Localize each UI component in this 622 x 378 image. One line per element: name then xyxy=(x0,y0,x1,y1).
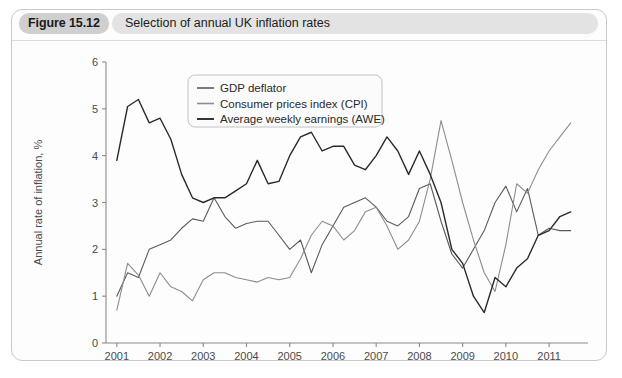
x-tick-label: 2009 xyxy=(450,350,474,361)
legend-label-awe: Average weekly earnings (AWE) xyxy=(220,113,385,125)
x-tick-label: 2008 xyxy=(407,350,431,361)
x-tick-label: 2005 xyxy=(277,350,301,361)
x-tick-label: 2011 xyxy=(537,350,561,361)
legend-label-cpi: Consumer prices index (CPI) xyxy=(220,98,368,110)
y-tick-label: 1 xyxy=(92,290,98,302)
x-tick-label: 2006 xyxy=(321,350,345,361)
x-tick-label: 2010 xyxy=(494,350,518,361)
y-tick-label: 6 xyxy=(92,56,98,68)
x-tick-label: 2001 xyxy=(105,350,129,361)
y-tick-label: 4 xyxy=(92,150,98,162)
y-axis-title: Annual rate of inflation, % xyxy=(32,140,44,266)
figure-number-tag: Figure 15.12 xyxy=(19,13,109,34)
figure-caption-text: Selection of annual UK inflation rates xyxy=(112,13,598,34)
figure-caption-bar: Figure 15.12 Selection of annual UK infl… xyxy=(12,10,606,40)
x-tick-label: 2004 xyxy=(234,350,258,361)
series-line-cpi xyxy=(117,121,571,311)
series-line-awe xyxy=(117,99,571,312)
figure-card: Figure 15.12 Selection of annual UK infl… xyxy=(11,9,607,361)
x-tick-label: 2002 xyxy=(148,350,172,361)
line-chart: 0123456200120022003200420052006200720082… xyxy=(12,41,606,361)
chart-plot-area: 0123456200120022003200420052006200720082… xyxy=(12,41,606,360)
legend-label-gdp-deflator: GDP deflator xyxy=(220,82,286,94)
y-tick-label: 2 xyxy=(92,243,98,255)
x-tick-label: 2007 xyxy=(364,350,388,361)
x-tick-label: 2003 xyxy=(191,350,215,361)
y-tick-label: 0 xyxy=(92,337,98,349)
y-tick-label: 5 xyxy=(92,103,98,115)
y-tick-label: 3 xyxy=(92,197,98,209)
